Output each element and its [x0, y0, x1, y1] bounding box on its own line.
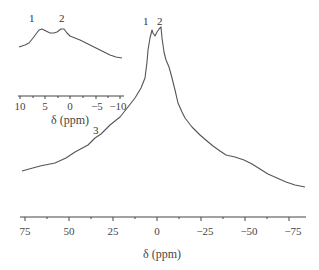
inset-peak-label-1: 1: [29, 12, 35, 24]
inset-tick-0: 0: [67, 100, 73, 112]
main-x-ticks: [25, 217, 289, 221]
tick-0: 0: [154, 225, 160, 237]
tick-neg25: −25: [196, 225, 214, 237]
inset-peak-label-2: 2: [59, 12, 65, 24]
tick-neg75: −75: [284, 225, 302, 237]
inset-spectrum-curve: [19, 29, 122, 58]
tick-75: 75: [20, 225, 32, 237]
inset-x-axis-title: δ (ppm): [51, 113, 89, 127]
inset-tick-neg10: −10: [109, 100, 127, 112]
main-peak-label-1: 1: [143, 15, 149, 27]
inset-x-tick-labels: 10 5 0 −5 −10: [15, 100, 128, 112]
main-peak-label-2: 2: [157, 15, 163, 27]
tick-neg50: −50: [240, 225, 258, 237]
main-peak-label-3: 3: [93, 124, 99, 136]
main-x-axis-title: δ (ppm): [143, 247, 181, 261]
tick-25: 25: [108, 225, 120, 237]
inset-tick-neg5: −5: [91, 100, 103, 112]
inset-tick-10: 10: [15, 100, 27, 112]
inset-tick-5: 5: [42, 100, 48, 112]
tick-50: 50: [64, 225, 76, 237]
nmr-spectrum-chart: 1 2 3 75 50 25 0 −25 −50 −75 δ (ppm) 1 2: [0, 0, 319, 270]
main-x-tick-labels: 75 50 25 0 −25 −50 −75: [20, 225, 303, 237]
main-spectrum-curve: [22, 27, 305, 187]
